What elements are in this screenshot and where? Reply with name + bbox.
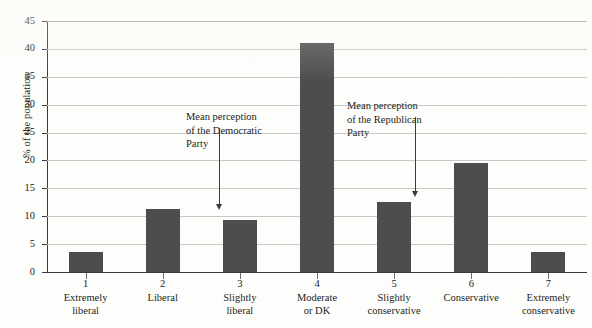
x-label-number-6: 6 xyxy=(428,278,514,291)
y-tick-label-40: 40 xyxy=(7,43,35,54)
annotation-mean-perception-democratic: Mean perception of the Democratic Party xyxy=(186,110,306,151)
y-tick-mark-0 xyxy=(42,272,47,273)
x-label-number-4: 4 xyxy=(274,278,360,291)
y-tick-label-10: 10 xyxy=(7,211,35,222)
y-tick-label-15: 15 xyxy=(7,183,35,194)
y-tick-label-0: 0 xyxy=(7,267,35,278)
bar-5 xyxy=(377,202,411,272)
x-label-category-4: Moderate or DK xyxy=(274,292,360,317)
x-label-1: 1Extremely liberal xyxy=(43,278,129,317)
bar-4 xyxy=(300,43,334,272)
y-tick-label-20: 20 xyxy=(7,155,35,166)
bar-6 xyxy=(454,163,488,272)
x-label-number-5: 5 xyxy=(351,278,437,291)
y-tick-mark-45 xyxy=(42,21,47,22)
y-tick-mark-30 xyxy=(42,105,47,106)
annotation-arrow-republican-shaft xyxy=(415,117,416,193)
x-label-number-3: 3 xyxy=(197,278,283,291)
y-tick-label-5: 5 xyxy=(7,239,35,250)
y-tick-label-25: 25 xyxy=(7,127,35,138)
y-tick-label-30: 30 xyxy=(7,99,35,110)
annotation-mean-perception-republican: Mean perception of the Republican Party xyxy=(347,99,467,140)
y-tick-mark-25 xyxy=(42,133,47,134)
x-label-category-3: Slightly liberal xyxy=(197,292,283,317)
x-label-category-1: Extremely liberal xyxy=(43,292,129,317)
x-label-3: 3Slightly liberal xyxy=(197,278,283,317)
x-label-4: 4Moderate or DK xyxy=(274,278,360,317)
x-label-7: 7Extremely conservative xyxy=(505,278,591,317)
gridline-45 xyxy=(47,21,587,22)
x-label-category-6: Conservative xyxy=(428,292,514,305)
annotation-arrow-democratic-head xyxy=(216,204,222,210)
x-label-6: 6Conservative xyxy=(428,278,514,305)
annotation-arrow-democratic-shaft xyxy=(219,128,220,206)
x-label-2: 2Liberal xyxy=(120,278,206,305)
x-label-5: 5Slightly conservative xyxy=(351,278,437,317)
bar-1 xyxy=(69,252,103,272)
x-label-number-7: 7 xyxy=(505,278,591,291)
bar-7 xyxy=(531,252,565,272)
annotation-arrow-republican-head xyxy=(412,191,418,197)
x-label-number-1: 1 xyxy=(43,278,129,291)
y-tick-label-35: 35 xyxy=(7,71,35,82)
x-label-category-5: Slightly conservative xyxy=(351,292,437,317)
x-label-category-2: Liberal xyxy=(120,292,206,305)
x-label-category-7: Extremely conservative xyxy=(505,292,591,317)
y-tick-label-45: 45 xyxy=(7,16,35,27)
bar-2 xyxy=(146,209,180,272)
bar-chart: % of the population 051015202530354045 1… xyxy=(0,0,592,328)
y-tick-mark-40 xyxy=(42,49,47,50)
y-tick-mark-15 xyxy=(42,188,47,189)
y-tick-mark-20 xyxy=(42,160,47,161)
y-tick-mark-35 xyxy=(42,77,47,78)
y-tick-mark-10 xyxy=(42,216,47,217)
bar-3 xyxy=(223,220,257,272)
y-tick-mark-5 xyxy=(42,244,47,245)
y-axis-spine xyxy=(47,21,48,273)
plot-area: 051015202530354045 xyxy=(47,21,587,272)
x-label-number-2: 2 xyxy=(120,278,206,291)
